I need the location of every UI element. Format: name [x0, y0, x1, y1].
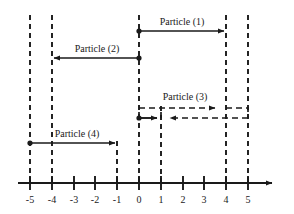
particle-2-arrow — [54, 55, 142, 60]
tick-label-minus2: -2 — [91, 194, 99, 205]
particle-4-label: Particle (4) — [55, 128, 100, 140]
tick-label-minus5: -5 — [26, 194, 34, 205]
tick-label-two: 2 — [181, 194, 186, 205]
guide-lines — [30, 15, 248, 182]
figure-canvas: Particle (1) Particle (2) Particle (3) P… — [0, 0, 294, 214]
axis-tick-labels: -5 -4 -3 -2 -1 0 1 2 3 4 5 — [26, 194, 251, 205]
particle-3-label: Particle (3) — [163, 91, 208, 103]
tick-label-one: 1 — [159, 194, 164, 205]
particle-3-start-dot — [136, 115, 141, 120]
particle-2-label: Particle (2) — [75, 43, 120, 55]
tick-label-three: 3 — [202, 194, 207, 205]
particle-3-path — [136, 108, 248, 121]
particle-3-upper-dashed — [139, 108, 215, 118]
particle-4-arrow — [27, 140, 115, 145]
particle-1-arrow — [136, 28, 224, 33]
particle-2-start-dot — [136, 55, 141, 60]
tick-label-minus4: -4 — [48, 194, 56, 205]
particle-4-start-dot — [27, 140, 32, 145]
tick-label-minus1: -1 — [113, 194, 121, 205]
tick-label-zero: 0 — [137, 194, 142, 205]
tick-label-minus3: -3 — [70, 194, 78, 205]
tick-label-five: 5 — [246, 194, 251, 205]
particle-1-label: Particle (1) — [160, 16, 205, 28]
particle-3-upper-tail — [226, 108, 248, 118]
tick-label-four: 4 — [224, 194, 229, 205]
particle-1-start-dot — [136, 28, 141, 33]
